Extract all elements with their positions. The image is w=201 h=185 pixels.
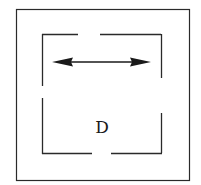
- double-arrow-icon: [52, 58, 151, 67]
- region-label: D: [95, 117, 109, 137]
- diagram: D: [0, 0, 201, 185]
- arrowhead-left-icon: [52, 58, 73, 67]
- arrowhead-right-icon: [130, 58, 151, 67]
